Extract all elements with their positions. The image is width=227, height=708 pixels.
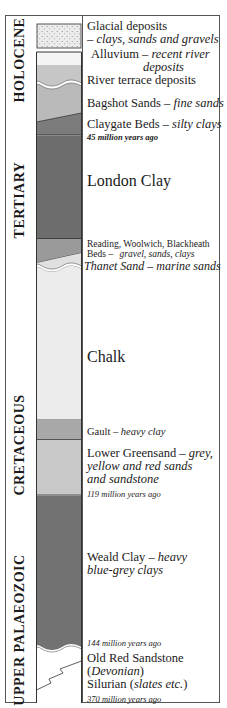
layer-desc: fine sands (173, 96, 223, 110)
era-label: CRETACEOUS (12, 394, 28, 495)
age-45-mya: 45 million years ago (87, 132, 158, 142)
paren: ) (183, 677, 187, 691)
label-alluvium: Alluvium – recent river deposits (91, 48, 210, 74)
label-chalk: Chalk (87, 348, 125, 365)
label-silurian: Silurian (slates etc.) (87, 678, 187, 691)
layer-name: Beds – (87, 249, 116, 259)
layer-alluvium (37, 52, 82, 65)
label-claygate-beds: Claygate Beds – silty clays (87, 118, 222, 131)
layer-gault (37, 421, 82, 440)
layer-desc: heavy (158, 550, 187, 564)
layer-weald-clay (37, 496, 82, 651)
era-upper-palaeozoic: UPPER PALAEOZOIC (6, 560, 34, 700)
layer-name: Silurian ( (87, 677, 134, 691)
era-tertiary: TERTIARY (6, 140, 34, 260)
layer-name: Bagshot Sands – (87, 96, 173, 110)
layer-chalk (37, 266, 82, 420)
label-lower-greensand: Lower Greensand – grey, yellow and red s… (87, 447, 213, 486)
era-label: HOLOCENE (12, 18, 28, 103)
layer-desc: – clays, sands and gravels (87, 32, 219, 46)
layer-desc: yellow and red sands (87, 459, 192, 473)
label-bagshot-sands: Bagshot Sands – fine sands (87, 97, 224, 110)
paren: ) (140, 664, 144, 678)
layer-name: Claygate Beds – (87, 117, 172, 131)
era-label: TERTIARY (12, 162, 28, 239)
age-144-mya: 144 million years ago (87, 638, 161, 648)
layer-desc: recent river (151, 47, 209, 61)
layer-london-clay (37, 136, 82, 239)
era-column-divider (82, 15, 83, 703)
label-weald-clay: Weald Clay – heavy blue-grey clays (87, 551, 187, 577)
label-london-clay: London Clay (87, 172, 171, 189)
layer-glacial-deposits (37, 24, 81, 48)
label-river-terrace: River terrace deposits (87, 74, 196, 87)
layer-desc: slates etc. (134, 677, 183, 691)
age-119-mya: 119 million years ago (87, 489, 161, 499)
label-glacial-deposits: Glacial deposits – clays, sands and grav… (87, 20, 219, 46)
era-holocene: HOLOCENE (6, 20, 34, 100)
strata-column (36, 0, 82, 708)
era-label: UPPER PALAEOZOIC (12, 554, 28, 705)
layer-desc: gravel, sands, clays (116, 249, 195, 259)
layer-lower-greensand (37, 440, 82, 495)
label-reading-beds: Reading, Woolwich, Blackheath Beds – gra… (87, 239, 210, 259)
label-old-red-sandstone: Old Red Sandstone (Devonian) (87, 652, 184, 678)
layer-name: Reading, Woolwich, Blackheath (87, 239, 210, 249)
age-370-mya: 370 million years ago (87, 694, 161, 704)
label-gault: Gault – heavy clay (87, 425, 165, 438)
layer-desc: deposits (143, 60, 184, 74)
layer-desc: and sandstone (87, 472, 159, 486)
layer-desc: Devonian (91, 664, 140, 678)
layer-name: Gault – (87, 426, 121, 437)
layer-name: Lower Greensand – (87, 446, 189, 460)
label-thanet-sand: Thanet Sand – marine sands (84, 260, 221, 273)
layer-desc: grey, (189, 446, 213, 460)
layer-name: Alluvium – (91, 47, 151, 61)
layer-desc: blue-grey clays (87, 563, 163, 577)
layer-desc: heavy clay (121, 426, 166, 437)
layer-desc: silty clays (172, 117, 222, 131)
layer-name: Weald Clay – (87, 550, 158, 564)
era-cretaceous: CRETACEOUS (6, 385, 34, 505)
